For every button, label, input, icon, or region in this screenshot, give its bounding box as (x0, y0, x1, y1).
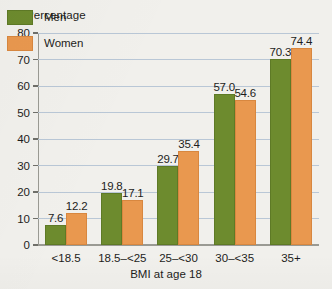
bar-value-label: 57.0 (213, 81, 235, 93)
y-axis-tick-label: 0 (4, 239, 30, 251)
bar-group: 7.612.2<18.5 (38, 33, 94, 245)
x-axis-tick-label: <18.5 (52, 252, 81, 264)
bar-value-label: 74.4 (291, 35, 313, 47)
legend: Men Women (7, 7, 83, 59)
bar-men-2[interactable]: 29.7 (157, 166, 178, 245)
bar-men-3[interactable]: 57.0 (214, 94, 235, 245)
plot-area: 010203040506070807.612.2<18.519.817.118.… (38, 33, 319, 245)
bar-men-0[interactable]: 7.6 (45, 225, 66, 245)
bar-group: 29.735.425–<30 (150, 33, 206, 245)
x-axis-tick-label: 30–<35 (215, 252, 254, 264)
bar-women-4[interactable]: 74.4 (291, 48, 312, 245)
bar-group: 70.374.435+ (263, 33, 319, 245)
x-axis-title: BMI at age 18 (0, 268, 332, 280)
x-axis-tick-label: 18.5–<25 (98, 252, 146, 264)
bar-group: 19.817.118.5–<25 (94, 33, 150, 245)
y-axis-tick-label: 30 (4, 160, 30, 172)
y-axis-tick-label: 50 (4, 107, 30, 119)
bar-group: 57.054.630–<35 (207, 33, 263, 245)
legend-swatch-women-icon (7, 36, 33, 51)
legend-swatch-men-icon (7, 10, 33, 25)
bar-women-1[interactable]: 17.1 (122, 200, 143, 245)
x-axis-tick-label: 35+ (281, 252, 301, 264)
y-axis-tick-label: 10 (4, 213, 30, 225)
bar-value-label: 29.7 (157, 153, 179, 165)
x-axis-tick-label: 25–<30 (159, 252, 198, 264)
bar-chart: Percentage 010203040506070807.612.2<18.5… (0, 0, 332, 289)
bar-men-4[interactable]: 70.3 (270, 59, 291, 245)
bar-value-label: 35.4 (178, 138, 200, 150)
y-axis-tick-label: 20 (4, 186, 30, 198)
legend-item-men: Men (7, 7, 83, 27)
legend-label-women: Women (44, 37, 83, 49)
y-axis-tick-label: 60 (4, 80, 30, 92)
bar-value-label: 7.6 (48, 212, 63, 224)
legend-item-women: Women (7, 33, 83, 53)
bar-value-label: 12.2 (66, 200, 88, 212)
bar-women-0[interactable]: 12.2 (66, 213, 87, 245)
bar-value-label: 70.3 (270, 46, 292, 58)
bar-value-label: 17.1 (122, 187, 144, 199)
bar-value-label: 54.6 (234, 87, 256, 99)
y-axis-tick-label: 40 (4, 133, 30, 145)
bar-men-1[interactable]: 19.8 (101, 193, 122, 245)
bar-women-2[interactable]: 35.4 (178, 151, 199, 245)
legend-label-men: Men (44, 11, 66, 23)
bar-value-label: 19.8 (101, 180, 123, 192)
bar-women-3[interactable]: 54.6 (235, 100, 256, 245)
